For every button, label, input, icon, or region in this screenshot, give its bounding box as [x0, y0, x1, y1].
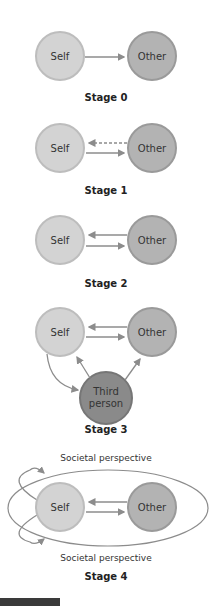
stage-label: Stage 1: [84, 185, 127, 196]
self-label: Self: [51, 327, 70, 338]
footer-bar: [0, 598, 60, 606]
arrow-third-to-self: [77, 357, 90, 378]
stage-2: Self Other Stage 2: [36, 216, 176, 289]
other-label: Other: [138, 327, 167, 338]
stage-label: Stage 2: [84, 278, 127, 289]
stage-label: Stage 3: [84, 424, 127, 435]
arrow-third-to-other: [125, 359, 140, 380]
third-person-label-line2: person: [89, 398, 123, 409]
arrow-self-to-third: [47, 354, 78, 390]
stage-3: Self Other Third person Stage 3 Societal…: [36, 308, 176, 463]
perspective-taking-diagram: Self Other Stage 0 Self Other Stage 1 Se…: [0, 0, 217, 606]
societal-perspective-bottom-label: Societal perspective: [60, 553, 152, 563]
other-label: Other: [138, 235, 167, 246]
self-label: Self: [51, 235, 70, 246]
stage-1: Self Other Stage 1: [36, 124, 176, 196]
societal-perspective-label: Societal perspective: [60, 453, 152, 463]
third-person-label-line1: Third: [92, 386, 119, 397]
self-label: Self: [51, 51, 70, 62]
other-label: Other: [138, 143, 167, 154]
other-label: Other: [138, 51, 167, 62]
stage-label: Stage 0: [84, 92, 127, 103]
self-label: Self: [51, 143, 70, 154]
stage-4: Societal perspective Self Other Societal…: [8, 468, 208, 582]
stage-0: Self Other Stage 0: [36, 32, 176, 103]
stage-label: Stage 4: [84, 571, 127, 582]
other-label: Other: [138, 502, 167, 513]
self-label: Self: [51, 502, 70, 513]
